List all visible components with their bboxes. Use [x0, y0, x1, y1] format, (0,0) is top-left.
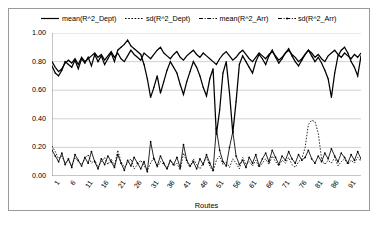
series-point [275, 157, 277, 159]
series-point [324, 70, 325, 71]
series-point [123, 169, 125, 171]
series-point [147, 78, 148, 79]
series-point [245, 167, 247, 169]
x-tick-label: 1 [53, 179, 61, 186]
series-point [229, 92, 230, 93]
series-point [202, 164, 204, 166]
series-point [265, 64, 266, 65]
x-tick-label: 31 [149, 179, 159, 189]
series-point [180, 84, 181, 85]
series-point [176, 157, 178, 159]
series-point [291, 158, 293, 160]
series-point [225, 165, 227, 167]
y-tick-label: 0.40 [32, 115, 46, 122]
legend-item-sd-r2-arr: sd(R^2_Arr) [278, 15, 337, 22]
series-point [327, 158, 329, 160]
series-point [258, 165, 260, 167]
series-point [275, 57, 276, 58]
series-point [58, 75, 59, 76]
series-point [321, 62, 322, 63]
series-point [265, 152, 267, 154]
series-point [317, 155, 319, 157]
series-point [87, 162, 89, 164]
series-point [311, 55, 312, 56]
series-point [111, 52, 112, 53]
series-point [166, 168, 168, 170]
series-point [117, 50, 118, 51]
series-point [74, 60, 75, 61]
series-line [52, 47, 361, 71]
series-point [281, 155, 283, 157]
series-point [193, 161, 195, 163]
series-point [133, 157, 135, 159]
series-point [298, 65, 299, 66]
series-point [259, 54, 260, 55]
y-tick-label: 1.00 [32, 29, 46, 36]
series-point [156, 165, 158, 167]
series-point [186, 159, 188, 161]
series-point [173, 164, 175, 166]
series-point [334, 72, 335, 73]
series-point [216, 128, 218, 130]
legend-label-sd-r2-arr: sd(R^2_Arr) [298, 15, 337, 22]
series-point [271, 149, 273, 151]
series-point [81, 58, 82, 59]
series-point [173, 67, 174, 68]
series-point [311, 158, 313, 160]
series-point [350, 154, 352, 156]
series-point [150, 97, 151, 98]
series-point [170, 61, 171, 62]
series-point [301, 159, 303, 161]
series-point [127, 159, 129, 161]
series-point [328, 78, 329, 79]
series-point [212, 169, 214, 171]
series-point [242, 55, 243, 56]
series-point [337, 55, 338, 56]
legend-label-mean-r2-arr: mean(R^2_Arr) [220, 15, 269, 22]
series-point [347, 52, 348, 53]
series-point [196, 67, 197, 68]
series-point [314, 61, 315, 62]
series-point [212, 68, 213, 69]
series-point [255, 61, 256, 62]
series-point [77, 159, 79, 161]
series-point [130, 165, 132, 167]
series-point [71, 67, 72, 68]
series-point [189, 165, 191, 167]
series-point [288, 151, 290, 153]
series-point [324, 152, 326, 154]
series-point [101, 55, 102, 56]
series-point [124, 44, 125, 45]
series-point [84, 157, 86, 159]
series-point [219, 110, 220, 111]
series-point [278, 62, 279, 63]
y-tick-label: 0.20 [32, 144, 46, 151]
series-point [318, 57, 319, 58]
series-line [52, 129, 361, 172]
series-point [88, 57, 89, 58]
series-point [294, 162, 296, 164]
series-point [354, 67, 355, 68]
series-point [58, 161, 60, 163]
series-point [347, 162, 349, 164]
series-point [255, 154, 257, 156]
series-point [203, 87, 204, 88]
series-point [334, 155, 336, 157]
legend-item-mean-r2-arr: mean(R^2_Arr) [199, 15, 268, 22]
series-point [344, 47, 345, 48]
series-point [94, 54, 95, 55]
series-point [146, 171, 148, 173]
y-tick-label: 0.80 [32, 58, 46, 65]
chart-legend: mean(R^2_Dept) sd(R^2_Dept) mean(R^2_Arr… [9, 15, 369, 22]
series-point [340, 152, 342, 154]
legend-label-mean-r2-dept: mean(R^2_Dept) [62, 15, 117, 22]
series-point [331, 148, 333, 150]
series-point [160, 155, 162, 157]
series-point [137, 162, 139, 164]
series-point [282, 58, 283, 59]
series-point [232, 131, 234, 133]
series-point [239, 164, 241, 166]
series-point [288, 48, 289, 49]
series-point [285, 159, 287, 161]
series-point [163, 81, 164, 82]
